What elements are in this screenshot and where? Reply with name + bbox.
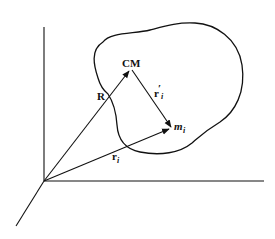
center-of-mass-diagram: CM R r ′ i m i r i [0,0,275,239]
label-r-sub: i [117,156,120,165]
label-r-prime-sub: i [161,92,164,101]
label-m-i: m i [174,120,186,135]
label-cm: CM [122,57,141,69]
vector-r-prime-i [132,70,171,127]
vector-r-i [44,129,169,181]
label-R: R [97,90,106,102]
label-m-sub: i [183,126,186,135]
depth-axis [16,181,44,226]
label-m-base: m [174,120,183,132]
label-r-i: r i [112,150,120,165]
label-r-prime-i: r ′ i [154,82,164,101]
rigid-body-outline [94,23,243,154]
